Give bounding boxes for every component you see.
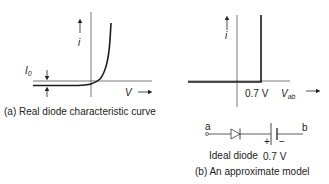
b-y-axis-label: i — [225, 30, 228, 41]
panel-b-approximate-model: i 0.7 V Vab a b + − Ideal diode 0.7 V — [188, 15, 318, 177]
b-threshold-label: 0.7 V — [245, 88, 269, 99]
panel-a-real-diode-curve: i V I0 (a) Real diode characteristic cur… — [4, 12, 156, 117]
a-diode-curve — [33, 23, 111, 86]
terminal-a-label: a — [205, 121, 211, 132]
a-y-axis-label: i — [78, 37, 81, 48]
diode-figure: i V I0 (a) Real diode characteristic cur… — [0, 0, 329, 184]
battery-minus-label: − — [279, 136, 285, 147]
a-x-axis-label: V — [125, 87, 133, 98]
b-x-axis-label: Vab — [281, 88, 296, 100]
a-caption: (a) Real diode characteristic curve — [4, 106, 156, 117]
battery-plus-label: + — [264, 136, 270, 147]
b-caption: (b) An approximate model — [195, 166, 310, 177]
b-model-curve — [188, 15, 261, 82]
diode-icon — [231, 129, 240, 139]
b-circuit-model: a b + − Ideal diode 0.7 V — [205, 121, 308, 162]
battery-voltage-label: 0.7 V — [263, 151, 287, 162]
terminal-a-node — [206, 133, 209, 136]
terminal-b-label: b — [302, 122, 308, 133]
ideal-diode-label: Ideal diode — [209, 150, 258, 161]
a-i0-label: I0 — [25, 65, 32, 77]
